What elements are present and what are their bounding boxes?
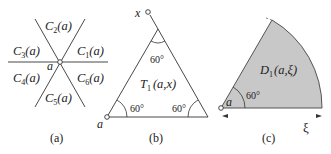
caption-c: (c): [262, 131, 275, 145]
caption-a: (a): [50, 131, 63, 145]
sector-angle-label: 60°: [246, 90, 260, 101]
panel-c: a 60° D1(a,ξ) ξ (c): [219, 18, 322, 145]
radius-arrow-left-icon: [222, 114, 228, 118]
left-angle-arc: [117, 100, 127, 117]
region-c3-label: C3(a): [13, 44, 40, 60]
figure: a C2(a) C3(a) C1(a) C4(a) C6(a) C5(a) (a…: [0, 0, 331, 154]
segment-x-to-apex: [150, 15, 158, 29]
right-angle-arc: [188, 100, 198, 117]
apex-angle-label: 60°: [150, 54, 164, 65]
point-a-marker: [219, 106, 224, 111]
radius-arrow-right-icon: [316, 114, 322, 118]
right-angle-label: 60°: [172, 103, 186, 114]
panel-b: x a 60° 60° 60° T1(a,x) (b): [97, 6, 208, 145]
vertex-a-label: a: [97, 117, 103, 131]
center-label-a: a: [47, 59, 53, 73]
point-a-marker: [105, 115, 110, 120]
sector-d1: [221, 20, 322, 108]
left-angle-label: 60°: [130, 103, 144, 114]
region-c1-label: C1(a): [77, 44, 104, 60]
dashed-arc-continuation: [266, 18, 272, 20]
region-c6-label: C6(a): [77, 71, 104, 87]
vertex-a-label: a: [226, 95, 232, 109]
point-x-marker: [146, 10, 151, 15]
region-c5-label: C5(a): [45, 91, 72, 107]
point-a-marker: [58, 60, 63, 65]
region-c4-label: C4(a): [13, 71, 40, 87]
sector-label: D1(a,ξ): [259, 63, 297, 79]
vertex-x-label: x: [134, 6, 141, 20]
apex-angle-arc: [151, 41, 165, 43]
radius-label-xi: ξ: [303, 120, 309, 135]
region-c2-label: C2(a): [45, 19, 72, 35]
panel-a: a C2(a) C3(a) C1(a) C4(a) C6(a) C5(a) (a…: [8, 19, 108, 145]
triangle-label: T1(a,x): [140, 77, 176, 93]
caption-b: (b): [149, 131, 163, 145]
